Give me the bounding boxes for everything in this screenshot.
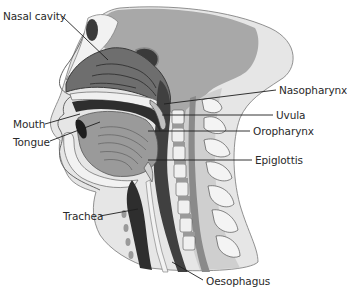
label-oropharynx: Oropharynx	[253, 125, 314, 137]
label-mouth: Mouth	[13, 118, 45, 130]
label-trachea: Trachea	[63, 210, 103, 222]
anatomy-diagram: Nasal cavity Mouth Tongue Trachea Nasoph…	[0, 0, 347, 290]
label-epiglottis: Epiglottis	[255, 154, 303, 166]
label-nasal-cavity: Nasal cavity	[3, 10, 66, 22]
frontal-sinus	[86, 19, 98, 41]
label-nasopharynx: Nasopharynx	[279, 84, 347, 96]
label-uvula: Uvula	[276, 109, 305, 121]
label-oesophagus: Oesophagus	[206, 275, 270, 287]
head-neck-illustration	[0, 0, 347, 290]
label-tongue: Tongue	[13, 136, 50, 148]
